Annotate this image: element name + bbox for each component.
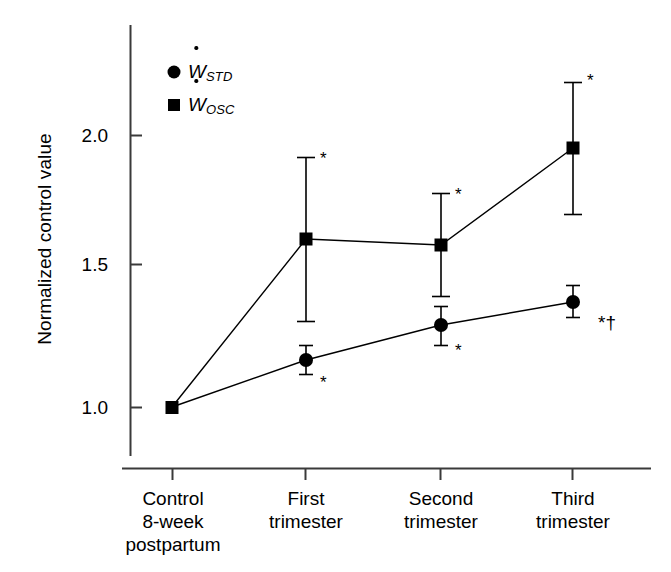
legend-marker-square	[168, 99, 180, 111]
x-tick-label-control: Control 8-week postpartum	[102, 487, 244, 557]
annotation-std-third: *†	[598, 313, 616, 332]
y-tick-label-2-0: 2.0	[62, 126, 108, 145]
legend-std-sub: STD	[206, 69, 233, 84]
marker-std-first	[299, 353, 313, 367]
legend-osc-base: W	[188, 94, 206, 115]
y-axis-label: Normalized control value	[34, 99, 56, 379]
series-line-std	[172, 302, 573, 407]
series-line-osc	[172, 148, 573, 407]
legend-wdot-osc: W	[188, 94, 206, 116]
marker-osc-first	[300, 233, 313, 246]
x-tick-label-first: First trimester	[238, 487, 374, 533]
marker-osc-third	[567, 142, 580, 155]
x-tick-label-second: Second trimester	[373, 487, 509, 533]
legend-item-osc: WOSC	[188, 94, 235, 117]
y-tick-label-1-0: 1.0	[62, 398, 108, 417]
marker-osc-second	[435, 239, 448, 252]
marker-std-third	[566, 295, 580, 309]
annotation-osc-first: *	[320, 150, 327, 167]
marker-std-second	[434, 318, 448, 332]
legend-osc-sub: OSC	[206, 102, 235, 117]
chart-figure: Normalized control value 2.0 1.5 1.0 Con…	[0, 0, 671, 572]
y-tick-label-1-5: 1.5	[62, 255, 108, 274]
annotation-std-first: *	[320, 374, 327, 391]
annotation-osc-second: *	[455, 186, 462, 203]
annotation-osc-third: *	[587, 72, 594, 89]
legend-marker-circle	[168, 66, 181, 79]
annotation-std-second: *	[455, 342, 462, 359]
x-tick-label-third: Third trimester	[505, 487, 641, 533]
marker-osc-control	[166, 401, 179, 414]
